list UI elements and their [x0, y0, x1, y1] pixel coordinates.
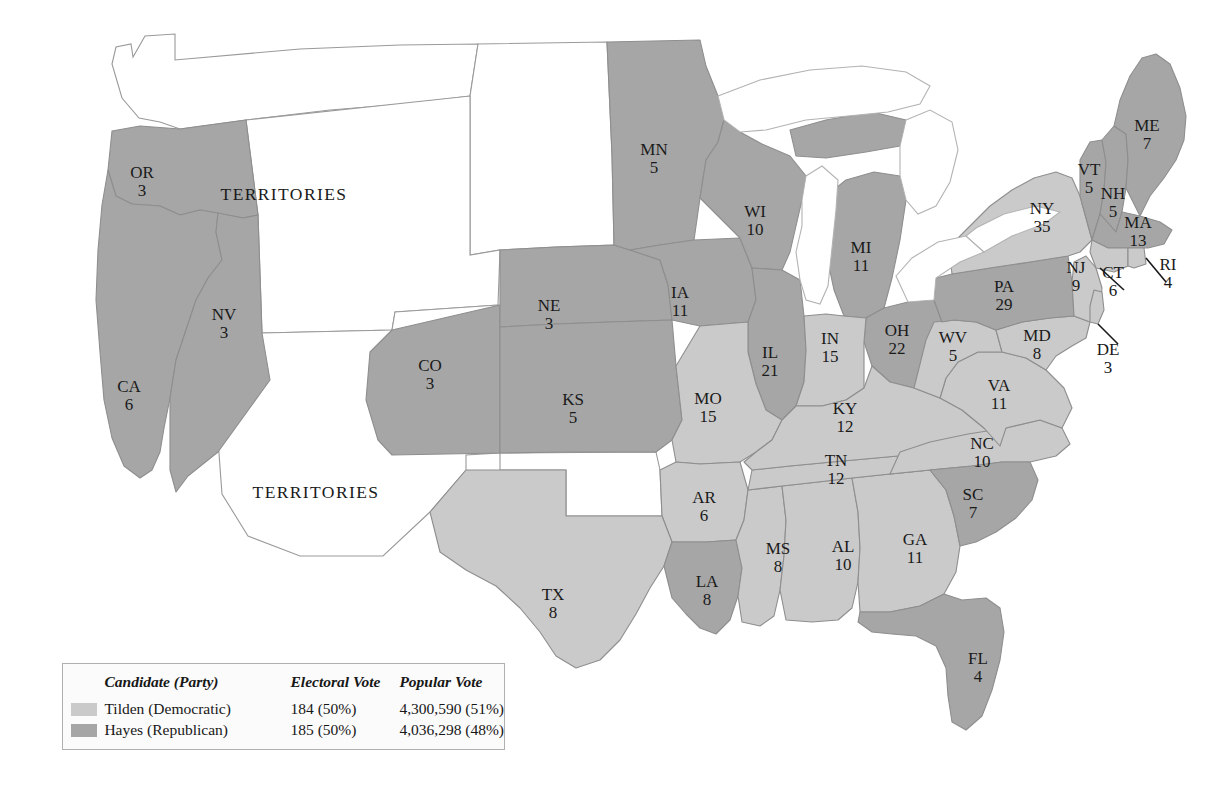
legend-body: Tilden (Democratic)184 (50%)4,300,590 (5…	[63, 698, 504, 740]
map-legend: Candidate (Party) Electoral Vote Popular…	[62, 663, 505, 750]
legend-header-popular: Popular Vote	[399, 673, 504, 698]
state-ar	[660, 462, 748, 542]
legend-candidate-hayes: Hayes (Republican)	[104, 719, 290, 740]
legend-swatch-cell-tilden	[63, 698, 104, 719]
legend-header-swatch	[63, 673, 104, 698]
legend-popular-tilden: 4,300,590 (51%)	[399, 698, 504, 719]
state-fl	[858, 594, 1004, 730]
state-al	[780, 478, 860, 622]
legend-electoral-hayes: 185 (50%)	[291, 719, 400, 740]
election-map-figure: OR3CA6NV3CO3NE3KS5MN5IA11MO15AR6TX8LA8WI…	[0, 0, 1229, 797]
legend-row-hayes: Hayes (Republican)185 (50%)4,036,298 (48…	[63, 719, 504, 740]
legend-swatch-hayes	[71, 724, 97, 737]
territory-interior-west	[246, 96, 500, 333]
leader-line-ri	[1146, 258, 1166, 282]
state-label-ri: RI4	[1160, 255, 1177, 292]
legend-popular-hayes: 4,036,298 (48%)	[399, 719, 504, 740]
state-in	[796, 314, 866, 406]
state-label-de: DE3	[1097, 340, 1120, 377]
legend-swatch-cell-hayes	[63, 719, 104, 740]
state-ri	[1128, 248, 1146, 268]
leader-line-de	[1098, 324, 1118, 344]
legend-header-row: Candidate (Party) Electoral Vote Popular…	[63, 673, 504, 698]
legend-table: Candidate (Party) Electoral Vote Popular…	[63, 673, 504, 740]
state-ne	[500, 245, 672, 327]
legend-header-candidate: Candidate (Party)	[104, 673, 290, 698]
state-ks	[500, 320, 682, 453]
state-la	[664, 540, 742, 634]
territory-label-south: TERRITORIES	[253, 482, 380, 502]
territory-label-north: TERRITORIES	[221, 184, 348, 204]
legend-candidate-tilden: Tilden (Democratic)	[104, 698, 290, 719]
state-mn	[607, 40, 724, 250]
legend-electoral-tilden: 184 (50%)	[291, 698, 400, 719]
state-ga	[852, 470, 960, 612]
lake-huron	[900, 110, 958, 214]
territory-northern-plains	[470, 42, 614, 255]
legend-row-tilden: Tilden (Democratic)184 (50%)4,300,590 (5…	[63, 698, 504, 719]
legend-swatch-tilden	[71, 703, 97, 716]
legend-header-electoral: Electoral Vote	[291, 673, 400, 698]
